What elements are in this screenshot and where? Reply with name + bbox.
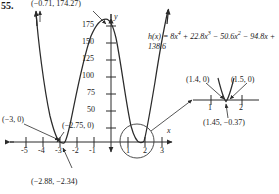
x-tick--1: -1 xyxy=(89,147,96,155)
curve-upper-arrowheads xyxy=(36,9,169,26)
inset-x-tick-1: 1 xyxy=(208,104,212,112)
x-axis-label: x xyxy=(167,127,171,135)
x-tick-1: 1 xyxy=(126,147,130,155)
x-tick-3: 3 xyxy=(160,147,164,155)
x-tick-2: 2 xyxy=(143,147,147,155)
inset-axis xyxy=(193,95,259,105)
y-axis xyxy=(106,14,116,152)
local-min-left-label: (−2.88, −2.34) xyxy=(31,178,77,186)
x-tick--3: -3 xyxy=(55,147,62,155)
zero-left-label: (−3, 0) xyxy=(2,116,24,124)
zero-second-label: (−2.75, 0) xyxy=(62,122,94,130)
x-tick--4: -4 xyxy=(38,147,45,155)
inset-zero-right-label: (1.5, 0) xyxy=(231,76,254,84)
y-axis-label: y xyxy=(114,13,118,21)
local-max-label: (−0.71, 174.27) xyxy=(31,0,81,8)
y-tick-100: 100 xyxy=(82,72,94,80)
magnifier-leader-line xyxy=(151,100,192,131)
inset-x-tick-2: 2 xyxy=(239,104,243,112)
inset-local-min-label: (1.45, −0.37) xyxy=(203,119,245,127)
y-tick-75: 75 xyxy=(87,89,95,97)
exercise-number: 55. xyxy=(1,1,14,11)
x-tick--5: -5 xyxy=(21,147,28,155)
y-tick-125: 125 xyxy=(82,55,94,63)
x-tick--2: -2 xyxy=(72,147,79,155)
y-tick-175: 175 xyxy=(82,21,94,29)
y-tick-50: 50 xyxy=(87,106,95,114)
figure-container: 55. (−0.71, 174.27) (−3, 0) (−2.75, 0) (… xyxy=(0,0,279,194)
function-equation: h(x) = 8x4 + 22.8x3 − 50.6x2 − 94.8x + 1… xyxy=(148,29,276,53)
y-tick-150: 150 xyxy=(82,38,94,46)
inset-zero-left-label: (1.4, 0) xyxy=(186,76,209,84)
